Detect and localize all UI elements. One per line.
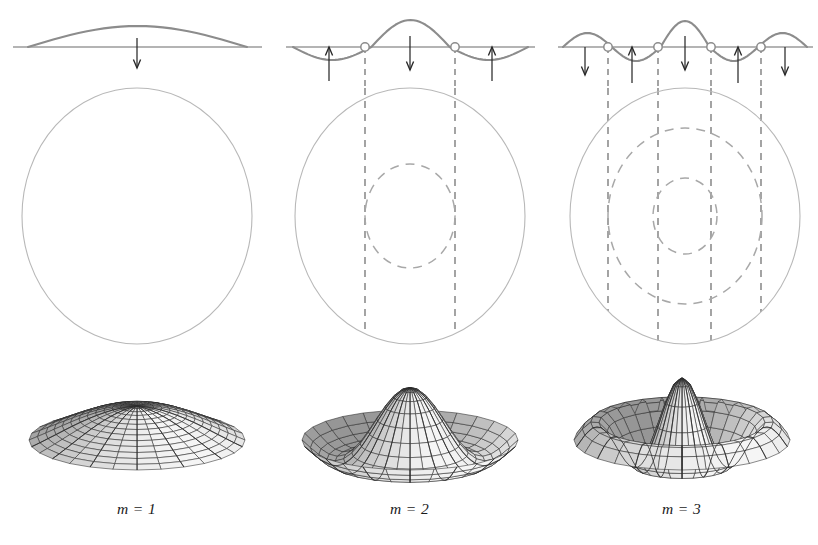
mesh-facet xyxy=(137,446,156,453)
membrane-boundary xyxy=(22,88,252,344)
mesh-facet xyxy=(410,469,434,475)
mesh-facet xyxy=(128,420,137,425)
mesh-facet xyxy=(119,446,138,453)
wave-profile-m2 xyxy=(273,0,546,90)
mesh-facet xyxy=(682,473,695,478)
mesh-facet xyxy=(137,452,157,459)
mode-column-m3: m = 3 xyxy=(545,0,818,545)
mesh-facet xyxy=(399,443,410,457)
mesh-facet xyxy=(397,457,410,469)
motion-arrow-1-down xyxy=(581,47,588,75)
mesh-facet xyxy=(410,428,419,443)
node-marker-2 xyxy=(654,43,662,51)
membrane-boundary xyxy=(570,88,800,344)
surface-plot-m1 xyxy=(0,368,273,496)
motion-arrow-1-down xyxy=(133,38,140,68)
node-marker-2 xyxy=(451,43,459,51)
wave-profile-m1 xyxy=(0,0,273,90)
mesh-svg-m2 xyxy=(273,368,546,496)
nodal-circle-1 xyxy=(365,164,455,268)
circle-svg-m1 xyxy=(0,88,273,350)
mesh-facet xyxy=(704,454,729,469)
circle-svg-m3 xyxy=(545,88,818,350)
mesh-facet xyxy=(669,473,682,478)
mesh-facet xyxy=(137,424,148,429)
mesh-facet xyxy=(122,435,137,441)
nodal-map-m2 xyxy=(273,88,546,350)
motion-arrow-2-down xyxy=(406,36,413,70)
node-marker-1 xyxy=(361,43,369,51)
wave-svg-m2 xyxy=(273,0,546,90)
surface-plot-m2 xyxy=(273,368,546,496)
mode-column-m1: m = 1 xyxy=(0,0,273,545)
mesh-facet xyxy=(124,429,137,435)
mode-label-m3: m = 3 xyxy=(545,500,818,534)
wave-svg-m1 xyxy=(0,0,273,90)
mesh-svg-m3 xyxy=(545,368,818,496)
motion-arrow-3-up xyxy=(488,47,495,81)
nodal-map-m3 xyxy=(545,88,818,350)
mesh-facet xyxy=(682,447,704,457)
mesh-facet xyxy=(126,424,137,429)
mesh-facet xyxy=(386,469,410,475)
mesh-facet xyxy=(115,458,137,465)
surface-plot-m3 xyxy=(545,368,818,496)
circle-svg-m2 xyxy=(273,88,546,350)
surface-mesh xyxy=(302,388,518,482)
mesh-facet xyxy=(401,428,410,443)
node-marker-3 xyxy=(707,43,715,51)
figure-root: m = 1 m = 2 m = 3 xyxy=(0,0,818,545)
mesh-facet xyxy=(120,440,137,446)
nodal-circle-2 xyxy=(653,178,717,254)
mesh-facet xyxy=(660,447,682,457)
wave-profile-m3 xyxy=(545,0,818,90)
surface-mesh xyxy=(29,401,245,470)
mesh-facet xyxy=(635,454,660,469)
mesh-facet xyxy=(137,429,150,435)
motion-arrow-5-down xyxy=(781,47,788,75)
mesh-facet xyxy=(410,443,421,457)
mesh-facet xyxy=(137,458,159,465)
mesh-facet xyxy=(658,456,682,470)
mesh-facet xyxy=(682,456,706,470)
motion-arrow-3-down xyxy=(681,36,688,70)
surface-mesh xyxy=(574,378,790,479)
mode-label-m2: m = 2 xyxy=(273,500,546,534)
wave-svg-m3 xyxy=(545,0,818,90)
motion-arrow-4-up xyxy=(734,47,741,83)
node-marker-1 xyxy=(604,43,612,51)
mesh-facet xyxy=(137,420,146,425)
mesh-facet xyxy=(117,452,137,459)
mesh-facet xyxy=(137,464,161,470)
mesh-facet xyxy=(410,457,423,469)
mode-column-m2: m = 2 xyxy=(273,0,546,545)
mesh-facet xyxy=(113,464,137,470)
nodal-map-m1 xyxy=(0,88,273,350)
nodal-circle-1 xyxy=(608,128,762,304)
motion-arrow-1-up xyxy=(325,47,332,81)
membrane-boundary xyxy=(295,88,525,344)
mesh-facet xyxy=(137,435,152,441)
node-marker-4 xyxy=(757,43,765,51)
mesh-facet xyxy=(137,440,154,446)
motion-arrow-2-up xyxy=(628,47,635,83)
mode-label-m1: m = 1 xyxy=(0,500,273,534)
mesh-svg-m1 xyxy=(0,368,273,496)
